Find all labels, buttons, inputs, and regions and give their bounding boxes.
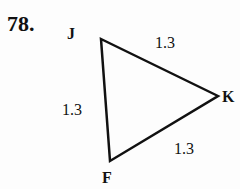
- vertex-label-k: K: [222, 89, 234, 105]
- vertex-label-f: F: [102, 170, 112, 186]
- side-label-jk: 1.3: [155, 35, 175, 51]
- side-label-jf: 1.3: [62, 102, 82, 118]
- triangle-jkf: [0, 0, 240, 189]
- side-label-fk: 1.3: [174, 141, 194, 157]
- vertex-label-j: J: [67, 26, 75, 42]
- triangle-shape: [101, 39, 218, 161]
